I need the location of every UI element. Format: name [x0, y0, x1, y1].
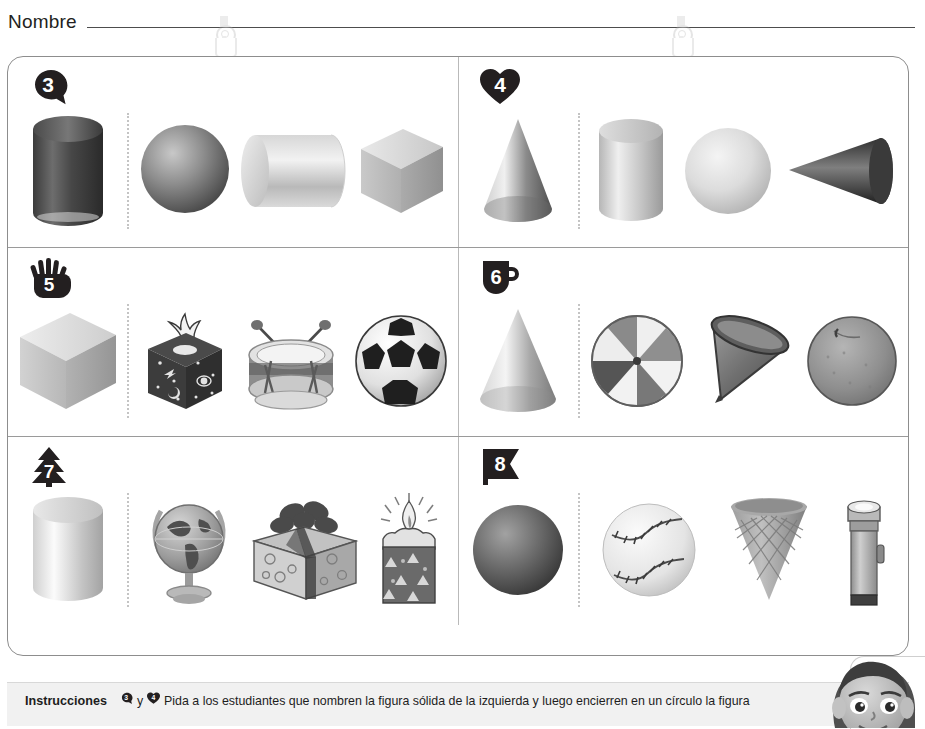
problem-6: 6	[458, 248, 908, 436]
choice-soccer-ball[interactable]	[352, 290, 450, 432]
choice-tissue-box[interactable]	[138, 290, 230, 432]
choice-group	[129, 99, 458, 243]
instructions-body: Pida a los estudiantes que nombren la fi…	[164, 693, 749, 709]
prompt-figure-cylinder	[8, 479, 127, 621]
choice-group	[580, 479, 908, 621]
prompt-figure-cube	[8, 290, 127, 432]
choice-cylinder[interactable]	[591, 99, 671, 243]
clip-body	[215, 38, 237, 58]
problem-content	[8, 99, 458, 243]
problem-number: 8	[494, 453, 505, 475]
choice-group	[129, 479, 458, 621]
inline-badge-heart: 4	[146, 691, 161, 705]
problem-content	[459, 99, 908, 243]
prompt-figure-cone	[459, 99, 578, 243]
problem-row: 7	[8, 436, 908, 625]
choice-ice-cream-cone[interactable]	[723, 479, 815, 621]
problem-number: 3	[42, 73, 54, 96]
problem-number: 6	[490, 266, 501, 288]
inline-badge-number: 4	[152, 694, 156, 701]
problem-7: 7	[8, 437, 458, 625]
problem-content	[459, 290, 908, 432]
choice-group	[580, 99, 908, 243]
problem-content	[459, 479, 908, 621]
inline-badge-fish: 3	[119, 691, 134, 705]
choice-candle[interactable]	[369, 479, 449, 621]
choice-group	[129, 290, 458, 432]
choice-gift-box[interactable]	[246, 479, 362, 621]
student-illustration	[829, 650, 921, 728]
problem-3: 3	[8, 57, 458, 247]
problem-row: 3	[8, 57, 908, 247]
name-label: Nombre	[8, 12, 77, 32]
inline-badge-number: 3	[124, 694, 128, 701]
problem-content	[8, 290, 458, 432]
choice-cone-sideways[interactable]	[785, 99, 897, 243]
prompt-figure-sphere-dark	[459, 479, 578, 621]
choice-sphere[interactable]	[136, 99, 234, 243]
choice-group	[580, 290, 908, 432]
choice-cube[interactable]	[351, 99, 451, 243]
prompt-figure-cone	[459, 290, 578, 432]
choice-flashlight[interactable]	[838, 479, 890, 621]
choice-orange[interactable]	[804, 290, 900, 432]
choice-drum[interactable]	[235, 290, 347, 432]
instructions-text-line: Instrucciones 3 y 4 Pida a los estudiant…	[25, 691, 897, 709]
problem-8: 8	[458, 437, 908, 625]
clip-body	[672, 38, 694, 58]
name-row: Nombre	[0, 0, 925, 34]
prompt-figure-cylinder-dark	[8, 99, 127, 243]
choice-beach-ball[interactable]	[588, 290, 686, 432]
instructions-bar: Instrucciones 3 y 4 Pida a los estudiant…	[7, 682, 909, 726]
problem-content	[8, 479, 458, 621]
problem-number: 4	[494, 73, 506, 96]
problem-5: 5	[8, 248, 458, 436]
worksheet-panel: 3	[7, 56, 909, 656]
choice-sphere[interactable]	[680, 99, 776, 243]
choice-paper-cone-cup[interactable]	[691, 290, 799, 432]
problem-4: 4	[458, 57, 908, 247]
choice-baseball[interactable]	[598, 479, 700, 621]
instructions-conjunction: y	[137, 693, 143, 709]
problem-row: 5	[8, 247, 908, 436]
choice-cylinder-horizontal[interactable]	[237, 99, 349, 243]
instructions-title: Instrucciones	[25, 693, 107, 709]
choice-globe[interactable]	[139, 479, 239, 621]
